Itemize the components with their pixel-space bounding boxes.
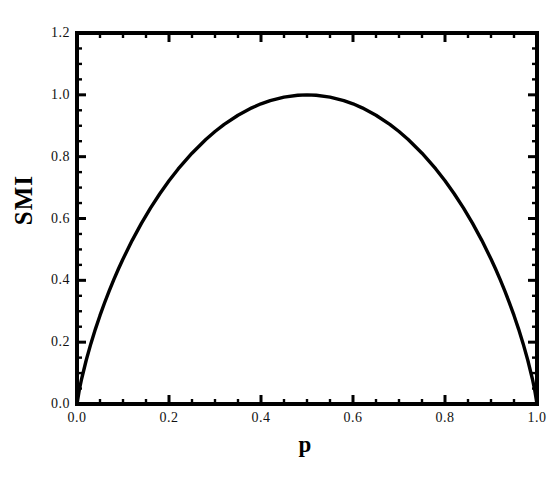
- x-tick-label: 0.4: [252, 410, 271, 426]
- y-tick-label: 1.0: [26, 87, 70, 103]
- x-tick-label: 0.8: [436, 410, 455, 426]
- y-tick-label: 0.4: [26, 272, 70, 288]
- x-axis-title: p: [277, 432, 333, 458]
- y-tick-label: 0.8: [26, 149, 70, 165]
- plot-area: [0, 0, 559, 479]
- y-axis-title: SMI: [10, 175, 50, 225]
- y-tick-label: 0.0: [26, 396, 70, 412]
- x-tick-label: 0.6: [344, 410, 363, 426]
- y-tick-label: 1.2: [26, 25, 70, 41]
- x-tick-label: 1.0: [528, 410, 547, 426]
- chart-figure: 0.00.20.40.60.81.01.2 0.00.20.40.60.81.0…: [0, 0, 559, 479]
- y-tick-label: 0.2: [26, 334, 70, 350]
- x-tick-label: 0.2: [160, 410, 179, 426]
- x-tick-label: 0.0: [68, 410, 87, 426]
